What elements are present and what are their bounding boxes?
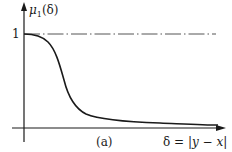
y-axis-arrow-icon (21, 2, 27, 11)
x-axis-label: δ = |y − x| (163, 136, 227, 148)
y-tick-one: 1 (12, 28, 20, 40)
x-axis-arrow-icon (216, 125, 226, 131)
y-axis-label: μ1(δ) (29, 4, 59, 16)
membership-curve (24, 34, 218, 125)
diagram-canvas (0, 0, 232, 152)
panel-label: (a) (96, 136, 113, 148)
